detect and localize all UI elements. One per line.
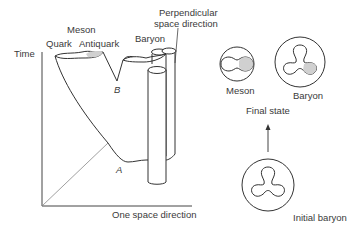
worldsheet-left-edge	[55, 56, 146, 162]
arrow-head-icon	[266, 124, 271, 130]
front-cylinder	[148, 70, 166, 184]
perpendicular-label-1: Perpendicular	[159, 8, 218, 18]
baryon-worldsheet-label: Baryon	[135, 34, 165, 44]
final-meson-label: Meson	[226, 86, 255, 96]
rear-cylinder-wall	[166, 52, 175, 160]
perpendicular-axis	[42, 143, 108, 206]
time-axis-label: Time	[14, 49, 35, 59]
final-baryon-label: Baryon	[293, 91, 323, 101]
point-b-label: B	[114, 85, 120, 95]
meson-antiquark-shade	[239, 57, 253, 71]
diagram-canvas	[0, 0, 359, 230]
rear-cylinder-top	[162, 48, 176, 54]
point-a-label: A	[116, 165, 122, 175]
worldsheet-v-notch	[103, 52, 134, 81]
quark-label: Quark	[46, 39, 72, 49]
front-cylinder-top	[148, 67, 166, 74]
final-state-label: Final state	[246, 106, 290, 116]
meson-label: Meson	[67, 25, 96, 35]
perpendicular-pointer	[175, 28, 178, 63]
perpendicular-label-2: space direction	[154, 19, 218, 29]
space-axis-label: One space direction	[112, 210, 197, 220]
antiquark-label: Antiquark	[79, 39, 119, 49]
initial-baryon-label: Initial baryon	[293, 213, 347, 223]
